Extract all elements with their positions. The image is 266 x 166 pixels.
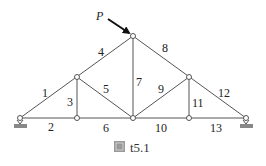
member-label: 7 [136,75,142,89]
right-support-icon [240,120,253,128]
load-label: P [95,9,104,23]
member-label: 6 [103,121,109,135]
member-label: 2 [48,120,54,134]
member-label: 10 [155,121,167,135]
member-label: 8 [162,41,168,55]
member-label: 3 [67,95,73,109]
truss-members [20,36,246,118]
left-support-icon [14,120,27,128]
member-label: 13 [210,121,222,135]
truss-diagram: P 1 2 3 4 5 6 7 8 9 10 11 12 13 t5.1 [0,0,266,166]
member-label: 4 [98,45,104,59]
member-label: 12 [218,86,230,100]
figure-caption: t5.1 [114,140,150,155]
member-label: 1 [42,86,48,100]
load-arrow-icon [108,19,129,33]
member-labels: 1 2 3 4 5 6 7 8 9 10 11 12 13 [42,41,230,135]
figure-caption-text: t5.1 [130,140,150,155]
member-label: 9 [158,82,164,96]
member-label: 5 [103,82,109,96]
member-label: 11 [192,96,204,110]
